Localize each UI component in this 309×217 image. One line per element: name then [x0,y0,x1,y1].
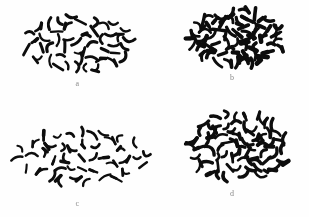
chromosome-spread-b [155,0,309,76]
panel-label-b: b [155,74,309,82]
panel-label-a: a [0,80,155,88]
panel-d: d [155,104,309,212]
panel-label-d: d [155,190,309,198]
chromosome-spread-a [0,2,155,82]
panel-a: a [0,2,155,102]
panel-b: b [155,0,309,100]
chromosome-spread-d [155,104,309,188]
chromosome-spread-c [0,112,155,198]
panel-label-c: c [0,200,155,208]
panel-c: c [0,112,155,212]
figure-plate: a b c d [0,0,309,217]
